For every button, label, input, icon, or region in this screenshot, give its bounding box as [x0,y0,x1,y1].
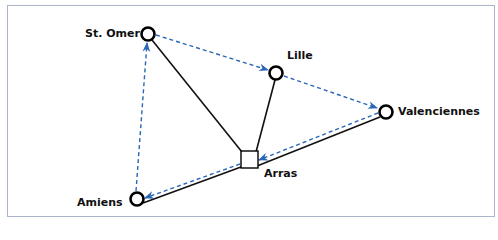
label-lille: Lille [287,49,313,62]
node-valenciennes [380,106,393,119]
arrow-lille-valenciennes [284,76,377,108]
edge-st-omer-arras [152,40,242,152]
node-lille [270,67,283,80]
nodes [131,28,393,206]
node-arras [241,151,258,168]
arrow-valenciennes-arras [259,113,378,160]
arrow-amiens-st-omer [136,43,147,191]
edge-valenciennes-arras [257,117,380,166]
label-amiens: Amiens [77,196,123,209]
arrow-arras-amiens [145,164,240,198]
node-st-omer [142,28,155,41]
edge-arras-amiens [143,167,241,203]
node-amiens [131,193,144,206]
label-valenciennes: Valenciennes [398,105,480,118]
dashed-arrows [136,35,378,198]
solid-edges [143,40,380,203]
label-st-omer: St. Omer [85,27,140,40]
edge-lille-arras [256,80,275,152]
label-arras: Arras [264,167,297,180]
